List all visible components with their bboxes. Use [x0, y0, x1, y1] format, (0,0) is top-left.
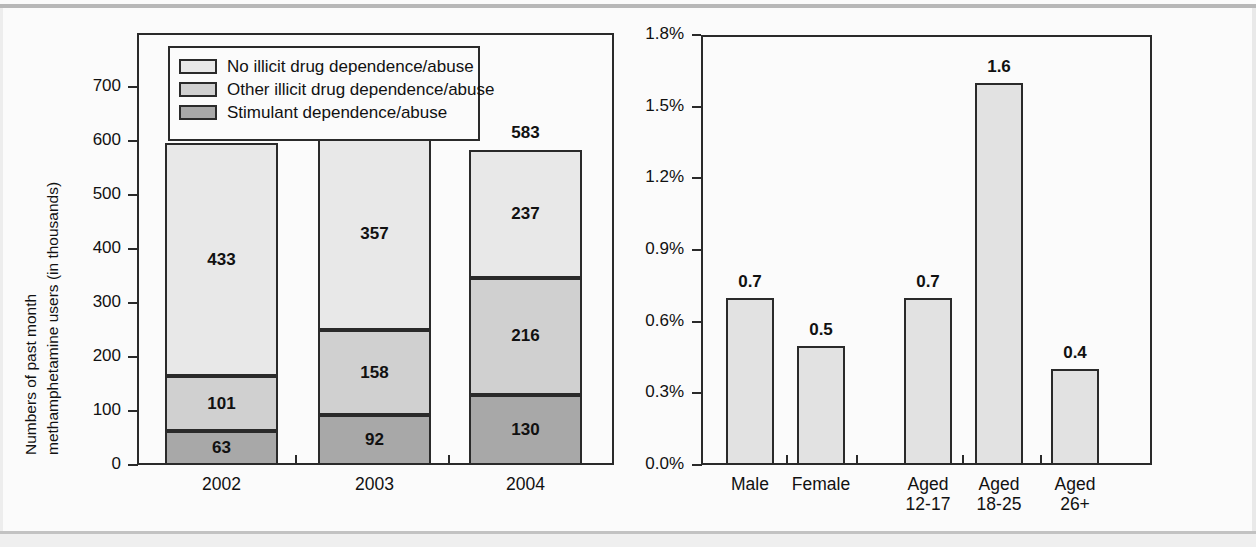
right-y-tick-label: 1.8% [616, 24, 684, 44]
bar-value-label: 0.7 [884, 272, 972, 292]
left-y-tick-mark [128, 356, 138, 358]
right-y-tick-mark [692, 392, 702, 394]
right-x-tick-mark [962, 455, 964, 465]
bar-segment-value-label: 92 [320, 430, 429, 450]
bar-segment[interactable]: 101 [165, 376, 278, 431]
left-y-tick-mark [128, 464, 138, 466]
legend: No illicit drug dependence/abuseOther il… [168, 46, 480, 141]
bar-segment[interactable]: 63 [165, 431, 278, 465]
bar[interactable] [904, 298, 952, 465]
left-x-tick-label: 2002 [145, 475, 298, 495]
bar-segment-value-label: 216 [471, 326, 580, 346]
bar-total-label: 583 [469, 123, 582, 143]
bar-segment-value-label: 101 [167, 394, 276, 414]
right-y-tick-mark [692, 34, 701, 36]
bar-segment-value-label: 158 [320, 363, 429, 383]
right-y-tick-mark [692, 249, 702, 251]
bar-value-label: 1.6 [955, 57, 1043, 77]
bar[interactable] [797, 346, 845, 465]
right-x-tick-label-line: Aged [1025, 475, 1125, 495]
bar-value-label: 0.7 [706, 272, 794, 292]
left-y-tick-mark [128, 194, 138, 196]
right-y-tick-label: 0.3% [616, 382, 684, 402]
right-y-tick-label: 0.9% [616, 239, 684, 259]
right-x-tick-mark [1040, 455, 1042, 465]
bar-segment[interactable]: 433 [165, 143, 278, 377]
right-x-tick-label: Female [771, 475, 871, 495]
right-y-tick-label: 0.6% [616, 311, 684, 331]
right-x-tick-label-line: Female [771, 475, 871, 495]
left-y-tick-mark [128, 248, 138, 250]
bar-segment[interactable]: 92 [318, 415, 431, 465]
right-y-tick-mark [692, 464, 702, 466]
scan-edge-right [1252, 8, 1256, 531]
left-y-tick-label: 200 [57, 346, 121, 366]
left-x-tick-label: 2004 [449, 475, 602, 495]
left-y-tick-label: 500 [57, 184, 121, 204]
bar-segment[interactable]: 237 [469, 150, 582, 278]
bar[interactable] [1051, 369, 1099, 465]
bar-segment-value-label: 357 [320, 224, 429, 244]
legend-swatch-no_illicit [179, 59, 217, 74]
legend-item[interactable]: Other illicit drug dependence/abuse [179, 78, 468, 101]
legend-item-label: No illicit drug dependence/abuse [227, 57, 474, 77]
right-x-tick-mark [856, 455, 858, 465]
legend-item-label: Other illicit drug dependence/abuse [227, 80, 494, 100]
left-y-tick-mark [128, 410, 138, 412]
scan-band-bottom-fill [0, 534, 1256, 547]
right-y-tick-mark [692, 106, 702, 108]
right-x-tick-mark [786, 455, 788, 465]
left-y-tick-mark [128, 302, 138, 304]
legend-item[interactable]: Stimulant dependence/abuse [179, 101, 468, 124]
bar[interactable] [975, 83, 1023, 465]
legend-swatch-stimulant [179, 105, 217, 120]
bar-segment[interactable]: 158 [318, 330, 431, 415]
left-y-tick-mark [128, 140, 138, 142]
legend-item[interactable]: No illicit drug dependence/abuse [179, 55, 468, 78]
left-y-tick-label: 100 [57, 400, 121, 420]
legend-item-label: Stimulant dependence/abuse [227, 103, 447, 123]
right-y-tick-label: 0.0% [616, 454, 684, 474]
left-y-tick-label: 700 [57, 76, 121, 96]
bar-segment[interactable]: 216 [469, 278, 582, 395]
left-x-tick-mark [295, 455, 297, 465]
left-y-tick-label: 0 [57, 454, 121, 474]
right-y-tick-mark [692, 177, 702, 179]
right-x-tick-label: Aged26+ [1025, 475, 1125, 514]
left-x-tick-mark [448, 455, 450, 465]
left-x-tick-label: 2003 [298, 475, 451, 495]
left-y-tick-label: 400 [57, 238, 121, 258]
left-y-tick-label: 600 [57, 130, 121, 150]
right-y-tick-label: 1.5% [616, 96, 684, 116]
figure-container: Numbers of past monthmethamphetamine use… [0, 0, 1256, 547]
bar-segment-value-label: 433 [167, 250, 276, 270]
scan-band-top [0, 4, 1256, 8]
left-y-tick-mark [128, 86, 138, 88]
scan-edge-left [0, 8, 3, 531]
right-x-tick-label-line: 26+ [1025, 495, 1125, 515]
bar-segment[interactable]: 130 [469, 395, 582, 465]
right-y-tick-mark [692, 321, 702, 323]
bar-segment-value-label: 63 [167, 438, 276, 458]
bar-value-label: 0.5 [777, 320, 865, 340]
left-y-axis-label-line: Numbers of past month [22, 294, 40, 455]
left-y-tick-label: 300 [57, 292, 121, 312]
right-y-tick-label: 1.2% [616, 167, 684, 187]
bar-segment[interactable]: 357 [318, 137, 431, 330]
bar-segment-value-label: 130 [471, 420, 580, 440]
bar[interactable] [726, 298, 774, 465]
bar-value-label: 0.4 [1031, 343, 1119, 363]
legend-swatch-other_illicit [179, 82, 217, 97]
bar-segment-value-label: 237 [471, 204, 580, 224]
